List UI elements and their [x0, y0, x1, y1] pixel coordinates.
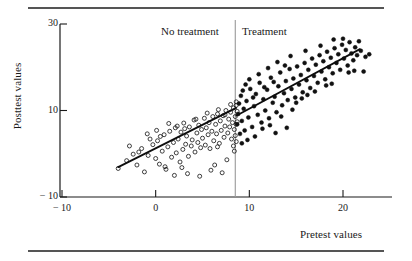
data-point-filled — [238, 132, 242, 136]
data-point-filled — [324, 83, 328, 87]
data-point-open — [189, 144, 193, 148]
x-tick-label: 20 — [325, 202, 361, 213]
data-point-open — [226, 131, 230, 135]
data-point-open — [210, 129, 214, 133]
data-point-filled — [340, 43, 344, 47]
data-point-filled — [235, 122, 239, 126]
data-point-open — [151, 143, 155, 147]
data-point-open — [166, 145, 170, 149]
data-point-open — [186, 154, 190, 158]
y-tick-label: 10 — [34, 104, 58, 115]
data-point-filled — [336, 52, 340, 56]
data-point-open — [215, 132, 219, 136]
data-point-filled — [301, 90, 305, 94]
data-point-filled — [304, 49, 308, 53]
data-point-filled — [332, 38, 336, 42]
data-point-open — [202, 116, 206, 120]
data-point-filled — [341, 37, 345, 41]
data-point-filled — [362, 70, 366, 74]
data-point-filled — [262, 85, 266, 89]
x-tick-label: − 10 — [44, 202, 80, 213]
data-point-open — [190, 138, 194, 142]
annotation-treatment: Treatment — [242, 25, 287, 37]
data-point-open — [198, 174, 202, 178]
data-point-filled — [250, 125, 254, 129]
data-point-open — [196, 141, 200, 145]
data-point-filled — [367, 52, 371, 56]
data-point-filled — [305, 93, 309, 97]
data-point-open — [208, 147, 212, 151]
data-point-filled — [330, 82, 334, 86]
data-point-filled — [346, 64, 350, 68]
data-point-open — [205, 111, 209, 115]
data-point-filled — [293, 96, 297, 100]
data-point-filled — [240, 119, 244, 123]
data-point-open — [170, 155, 174, 159]
data-point-open — [156, 139, 160, 143]
data-point-filled — [347, 70, 351, 74]
data-point-open — [227, 117, 231, 121]
data-point-open — [146, 153, 150, 157]
data-point-open — [168, 129, 172, 133]
data-point-open — [212, 139, 216, 143]
data-point-filled — [285, 126, 289, 130]
data-point-filled — [247, 77, 251, 81]
annotation-no-treatment: No treatment — [161, 25, 219, 37]
data-point-filled — [239, 94, 243, 98]
regression-line — [118, 108, 236, 167]
data-point-open — [222, 135, 226, 139]
data-point-open — [135, 163, 139, 167]
data-point-filled — [275, 110, 279, 114]
data-point-filled — [351, 58, 355, 62]
data-point-open — [206, 133, 210, 137]
figure-container: Posttest values Pretest values No treatm… — [0, 0, 412, 261]
series-treatment — [235, 37, 371, 146]
data-point-filled — [313, 89, 317, 93]
data-point-filled — [314, 63, 318, 67]
x-axis-title: Pretest values — [300, 228, 362, 240]
y-tick-label: 30 — [34, 17, 58, 28]
data-point-open — [148, 137, 152, 141]
data-point-open — [155, 128, 159, 132]
data-point-filled — [357, 39, 361, 43]
data-point-filled — [245, 138, 249, 142]
data-point-filled — [280, 103, 284, 107]
data-point-filled — [256, 113, 260, 117]
data-point-open — [137, 150, 141, 154]
data-point-filled — [344, 48, 348, 52]
data-point-open — [209, 168, 213, 172]
data-point-filled — [295, 64, 299, 68]
data-point-filled — [269, 76, 273, 80]
data-point-filled — [308, 86, 312, 90]
data-point-filled — [275, 60, 279, 64]
series-no-treatment — [116, 100, 239, 178]
data-point-open — [182, 121, 186, 125]
data-point-open — [228, 125, 232, 129]
data-point-filled — [299, 73, 303, 77]
data-point-filled — [260, 121, 264, 125]
data-point-filled — [303, 61, 307, 65]
data-point-open — [186, 172, 190, 176]
data-point-open — [215, 112, 219, 116]
data-point-open — [140, 147, 144, 151]
data-point-filled — [338, 68, 342, 72]
data-point-filled — [237, 102, 241, 106]
data-point-filled — [300, 96, 304, 100]
data-point-filled — [253, 134, 257, 138]
data-point-filled — [246, 115, 250, 119]
data-point-filled — [260, 127, 264, 131]
data-point-open — [174, 151, 178, 155]
data-point-open — [167, 121, 171, 125]
data-point-filled — [279, 115, 283, 119]
data-point-filled — [291, 77, 295, 81]
data-point-filled — [244, 83, 248, 87]
data-point-filled — [268, 123, 272, 127]
data-point-open — [145, 132, 149, 136]
data-point-open — [211, 115, 215, 119]
data-point-filled — [276, 84, 280, 88]
data-point-filled — [283, 64, 287, 68]
data-point-filled — [274, 131, 278, 135]
data-point-filled — [310, 57, 314, 61]
data-point-filled — [348, 40, 352, 44]
data-point-filled — [316, 81, 320, 85]
